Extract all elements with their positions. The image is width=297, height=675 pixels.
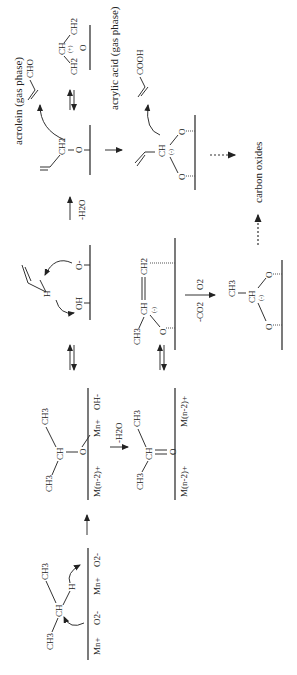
group-label: O — [78, 44, 88, 51]
acrolein-product: acrolein (gas phase) CHO — [12, 57, 65, 145]
group-label: O — [78, 448, 88, 455]
electron-arrow-icon — [64, 617, 84, 625]
group-label: CH3 — [227, 279, 237, 297]
group-label: CH — [55, 447, 65, 460]
group-label: CH — [57, 42, 67, 55]
group-label: CH2 — [69, 18, 79, 35]
desorption-arrow-icon — [40, 105, 65, 140]
group-label: CH — [139, 302, 149, 315]
site-label: M(n-2)+ — [92, 466, 102, 497]
site-label: O2- — [92, 553, 102, 567]
acetone-like-species: M(n-2)+ M(n-2)+ CH3 CH CH3 O — [132, 388, 189, 500]
isopropoxide-species: M(n-2)+ Mn+ OH- CH3 CH CH3 O — [40, 388, 102, 500]
group-label: CH — [54, 604, 64, 617]
group-label: CH2 — [139, 258, 149, 275]
group-label: CH3 — [44, 474, 54, 492]
acrylic-acid-label: acrylic acid (gas phase) — [108, 6, 121, 110]
group-label: O — [168, 448, 178, 455]
electron-arrow-icon — [45, 261, 72, 275]
step-label: O2 — [195, 279, 205, 290]
acrylic-acid-product: acrylic acid (gas phase) COOH — [108, 6, 160, 135]
site-label: Mn+ — [92, 577, 102, 595]
site-label: M(n-2)+ — [179, 466, 189, 497]
step-label: -CO2 — [195, 302, 205, 322]
dehydration-step: -H2O — [110, 422, 128, 447]
site-label: O- — [74, 261, 84, 271]
acrylic-acid-formula: COOH — [135, 49, 145, 75]
charge-label: (+) — [67, 46, 74, 53]
site-label: OH- — [92, 394, 102, 410]
acrolein-formula: CHO — [25, 58, 35, 78]
step-label: -H2O — [114, 422, 124, 443]
reaction-scheme: Mn+ O2- Mn+ O2- CH3 CH CH3 H M(n-2)+ Mn+… — [0, 0, 297, 675]
charge-label: (-) — [168, 149, 175, 155]
group-label: CH — [144, 447, 154, 460]
group-label: CH2 — [57, 138, 67, 155]
site-label: Mn+ — [92, 637, 102, 655]
charge-label: (-) — [258, 295, 265, 301]
site-label: M(n-2)+ — [179, 396, 189, 427]
group-label: H — [67, 583, 77, 590]
dehydration-step-allyl: -H2O — [70, 197, 87, 220]
carbon-oxides-label: carbon oxides — [252, 142, 264, 203]
desorption-arrow-icon — [148, 105, 161, 135]
propenyl-bidentate-species: CH3 CH (-) CH2 O — [132, 238, 175, 350]
group-label: CH2 — [69, 58, 79, 75]
group-label: CH3 — [132, 409, 142, 427]
group-label: O — [74, 146, 84, 153]
acetate-like-species: CH3 CH (-) O O — [227, 260, 282, 350]
group-label: CH3 — [40, 407, 50, 425]
allyloxy-species: CH2 O — [40, 125, 90, 175]
oxidation-step: O2 -CO2 — [185, 279, 215, 322]
step-label: -H2O — [77, 199, 87, 220]
acrolein-label: acrolein (gas phase) — [12, 57, 25, 145]
site-label: Mn+ — [92, 419, 102, 437]
propane-adsorption: Mn+ O2- Mn+ O2- CH3 CH CH3 H — [40, 548, 102, 660]
site-label: O2- — [92, 611, 102, 625]
group-label: CH3 — [132, 327, 142, 345]
group-label: CH — [157, 144, 167, 157]
site-label: OH — [74, 297, 84, 310]
group-label: CH — [247, 290, 257, 303]
group-label: CH3 — [45, 632, 55, 650]
equilibrium-arrows — [70, 345, 164, 370]
allyl-cation-species: CH (+) CH2 CH2 O — [57, 18, 90, 75]
group-label: O — [264, 271, 274, 278]
group-label: O — [158, 328, 168, 335]
group-label: CH3 — [40, 562, 50, 580]
electron-arrow-icon — [69, 565, 80, 583]
group-label: O — [177, 173, 187, 180]
electron-arrow-icon — [56, 300, 74, 313]
group-label: CH3 — [135, 472, 145, 490]
group-label: O — [264, 323, 274, 330]
equilibrium-arrows-top — [70, 90, 74, 110]
charge-label: (-) — [151, 307, 158, 313]
acrylate-species: CH (-) O O — [135, 115, 195, 190]
group-label: O — [177, 128, 187, 135]
allyl-h-abstraction: OH O- H — [22, 245, 90, 320]
